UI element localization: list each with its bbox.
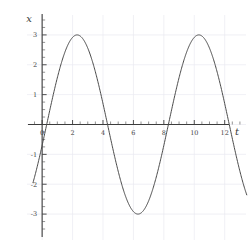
x-axis-label: t [235,126,240,137]
x-tick-label: 6 [131,129,135,137]
x-tick-label: 10 [190,129,198,137]
x-tick-label: 12 [221,129,229,137]
y-tick-label: 1 [33,91,37,99]
y-tick-label: 3 [33,31,37,39]
y-tick-label: -2 [31,181,37,189]
gridlines-group [27,15,246,240]
x-tick-label: 0 [40,129,44,137]
x-tick-label: 8 [162,129,166,137]
plot-area: 024681012-3-2-1123 t x [0,0,252,242]
sine-wave-chart: 024681012-3-2-1123 t x [0,0,252,242]
x-tick-label: 2 [70,129,74,137]
y-tick-label: 2 [33,61,37,69]
y-axis-label: x [26,13,32,24]
x-tick-label: 4 [101,129,105,137]
y-tick-label: -3 [31,210,37,218]
y-tick-label: -1 [31,151,37,159]
